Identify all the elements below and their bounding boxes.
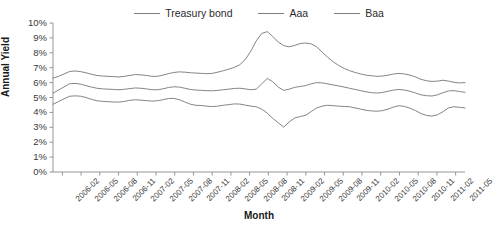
series-line-aaa	[53, 78, 465, 96]
series-line-baa	[53, 32, 465, 83]
series-line-treasury-bond	[53, 96, 465, 127]
